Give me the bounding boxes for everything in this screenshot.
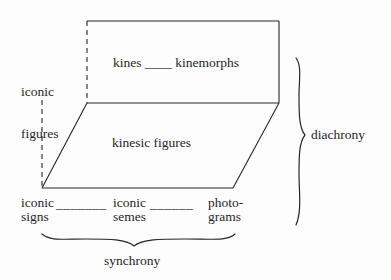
bottom-term-iconic-signs-line2: signs [21, 210, 54, 224]
label-synchrony: synchrony [104, 254, 160, 268]
bottom-connector-1: _______ [56, 196, 107, 212]
label-iconic-figures: iconic figures [21, 57, 59, 169]
synchrony-brace [42, 234, 235, 246]
label-upper-face: kines ____ kinemorphs [113, 56, 239, 70]
bottom-connector-2: ______ [150, 196, 194, 212]
label-iconic-figures-line2: figures [21, 127, 59, 141]
bottom-term-photograms-line2: grams [208, 210, 243, 224]
diachrony-brace [296, 58, 305, 225]
lower-face-right-edge [233, 103, 279, 188]
bottom-term-iconic-semes: iconic semes [113, 196, 146, 225]
bottom-term-photograms: photo- grams [208, 196, 243, 225]
bottom-term-iconic-signs-line1: iconic [21, 196, 54, 210]
label-iconic-figures-line1: iconic [21, 85, 59, 99]
label-diachrony: diachrony [311, 128, 365, 142]
bottom-term-photograms-line1: photo- [208, 196, 243, 210]
bottom-term-iconic-semes-line1: iconic [113, 196, 146, 210]
diagram-canvas: iconic figures kines ____ kinemorphs kin… [0, 0, 391, 280]
bottom-term-iconic-signs: iconic signs [21, 196, 54, 225]
bottom-term-iconic-semes-line2: semes [113, 210, 146, 224]
label-middle-face: kinesic figures [112, 136, 191, 150]
